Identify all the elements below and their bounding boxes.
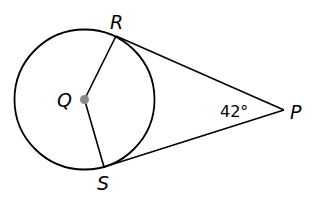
center-point-q <box>80 95 89 104</box>
radius-qr <box>85 36 117 100</box>
label-q: Q <box>57 89 72 111</box>
label-r: R <box>110 11 123 33</box>
tangent-rp <box>116 36 284 110</box>
label-s: S <box>97 172 109 194</box>
radius-qs <box>85 100 105 168</box>
angle-label-p: 42° <box>220 102 248 121</box>
label-p: P <box>290 101 302 123</box>
geometry-diagram: R Q S P 42° <box>0 0 316 198</box>
tangent-sp <box>104 110 284 167</box>
